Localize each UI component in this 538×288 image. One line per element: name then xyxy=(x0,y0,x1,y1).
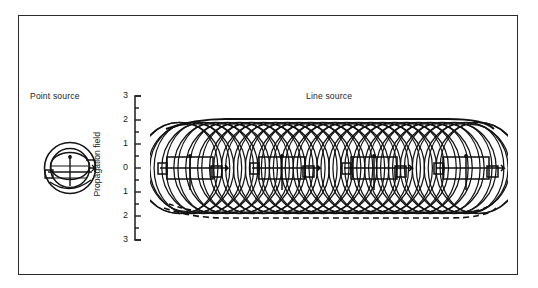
wave-propagation-artwork xyxy=(0,0,538,288)
figure-canvas: Point source Line source Propagation fie… xyxy=(0,0,538,288)
line-source-diagram xyxy=(137,119,522,218)
y-axis-ticks xyxy=(135,96,141,240)
point-source-diagram xyxy=(45,143,96,194)
